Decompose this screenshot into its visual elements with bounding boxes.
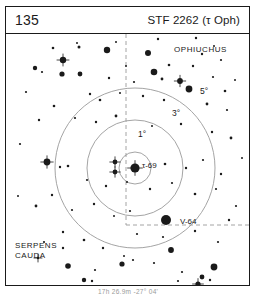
star-marker: [59, 71, 64, 76]
star-label-secondary: V-64: [180, 217, 196, 226]
star-marker: [234, 79, 236, 81]
chart-frame: 135 STF 2262 (τ Oph) OPHIUCHUS SERPENS C…: [5, 6, 250, 286]
star-marker: [235, 205, 237, 207]
star-marker: [82, 278, 86, 282]
star-marker: [83, 239, 86, 242]
star-marker: [123, 255, 125, 257]
star-marker: [145, 50, 151, 56]
star-marker: [105, 185, 107, 187]
star-marker: [211, 264, 218, 271]
star-marker: [89, 93, 91, 95]
star-marker: [125, 65, 127, 67]
star-marker: [212, 76, 214, 78]
star-marker: [129, 210, 131, 212]
star-marker: [157, 38, 159, 40]
star-marker: [230, 137, 233, 140]
star-marker: [74, 117, 76, 119]
constellation-label-ophiuchus: OPHIUCHUS: [174, 45, 227, 55]
star-marker: [119, 261, 124, 266]
star-marker: [51, 194, 53, 196]
chart-header: 135 STF 2262 (τ Oph): [6, 7, 249, 34]
star-marker: [108, 77, 110, 79]
page-number: 135: [15, 12, 39, 28]
star-marker: [161, 78, 164, 81]
star-marker: [177, 280, 179, 282]
star-marker: [194, 193, 197, 196]
star-marker: [149, 188, 151, 190]
star-marker: [115, 115, 118, 118]
star-marker: [76, 42, 78, 44]
star-marker: [195, 281, 200, 285]
star-marker: [38, 119, 40, 121]
star-marker: [91, 280, 93, 282]
chart-title: STF 2262 (τ Oph): [148, 14, 240, 26]
star-marker: [224, 90, 227, 93]
star-marker: [161, 215, 171, 225]
star-marker: [142, 95, 144, 97]
star-marker: [52, 47, 55, 50]
star-marker: [19, 143, 21, 145]
star-marker: [93, 203, 95, 205]
star-marker: [164, 163, 167, 166]
star-marker: [215, 188, 217, 190]
star-chart-page: 135 STF 2262 (τ Oph) OPHIUCHUS SERPENS C…: [0, 0, 256, 299]
star-marker: [136, 233, 138, 235]
star-marker: [151, 125, 153, 127]
star-label-primary: τ-69: [142, 161, 157, 170]
star-marker: [113, 160, 118, 165]
star-marker: [180, 123, 182, 125]
star-marker: [25, 91, 27, 93]
star-marker: [71, 209, 73, 211]
star-marker: [241, 157, 243, 159]
star-marker: [99, 99, 102, 102]
star-marker: [35, 205, 38, 208]
star-marker: [130, 163, 139, 172]
star-marker: [151, 69, 158, 76]
star-marker: [211, 131, 213, 133]
ring-label-1-degree: 1°: [138, 129, 146, 139]
star-marker: [53, 105, 56, 108]
star-marker: [209, 279, 211, 281]
star-marker: [59, 166, 61, 168]
star-marker: [86, 179, 88, 181]
star-marker: [220, 59, 222, 61]
star-marker: [195, 37, 197, 39]
star-marker: [228, 219, 230, 221]
star-marker: [104, 47, 110, 53]
star-marker: [62, 247, 64, 249]
star-marker: [94, 269, 96, 271]
star-marker: [192, 65, 194, 67]
star-marker: [168, 247, 174, 253]
star-marker: [153, 262, 155, 264]
star-marker: [194, 230, 196, 232]
star-marker: [44, 159, 51, 166]
star-marker: [65, 263, 71, 269]
star-marker: [67, 165, 70, 168]
star-marker: [113, 170, 118, 175]
star-marker: [17, 195, 19, 197]
star-marker: [102, 247, 104, 249]
sky-field: OPHIUCHUS SERPENS CAUDA 1° 3° 5° τ-69 V-…: [6, 34, 249, 285]
star-marker: [168, 64, 171, 67]
star-marker: [132, 259, 134, 261]
star-marker: [41, 71, 43, 73]
star-marker: [33, 66, 37, 70]
star-marker: [171, 182, 173, 184]
star-marker: [200, 275, 205, 280]
star-marker: [60, 57, 66, 63]
star-marker: [226, 109, 228, 111]
star-marker: [202, 159, 204, 161]
star-marker: [181, 271, 183, 273]
star-marker: [113, 215, 115, 217]
star-marker: [78, 46, 81, 49]
ring-label-5-degree: 5°: [200, 86, 208, 96]
star-marker: [78, 72, 83, 77]
star-marker: [220, 173, 222, 175]
star-marker: [206, 103, 209, 106]
star-marker: [115, 41, 117, 43]
star-marker: [162, 236, 164, 238]
star-marker: [185, 167, 187, 169]
star-marker: [126, 181, 128, 183]
star-marker: [62, 231, 64, 233]
star-marker: [163, 99, 165, 101]
